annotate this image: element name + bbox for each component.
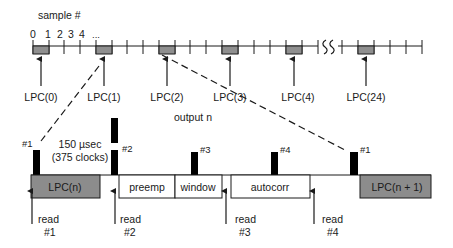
stage-label: preemp	[129, 181, 165, 193]
stage-label: autocorr	[251, 181, 290, 193]
read-number: #3	[239, 226, 251, 238]
sample-tick-numbers: 0 1 2 3 4 ...	[30, 28, 100, 40]
frame-arrows	[41, 59, 366, 86]
output-label: output n	[174, 111, 212, 123]
tick-ellipsis: ...	[92, 29, 100, 40]
tick-number: 3	[68, 28, 74, 40]
marker-label: #3	[200, 144, 211, 155]
tick-number: 1	[45, 28, 51, 40]
frame-label: LPC(24)	[346, 91, 385, 103]
sample-block-lpc0	[33, 46, 49, 54]
stage-label: window	[179, 181, 215, 193]
marker-bar-4	[271, 152, 278, 175]
marker-bar-1-next	[350, 152, 358, 175]
duration-label: 150 µsec	[59, 138, 102, 150]
read-label: read	[235, 213, 256, 225]
read-labels: read #1 read #2 read #3 read #4	[38, 213, 343, 238]
tick-number: 0	[30, 28, 36, 40]
clocks-label: (375 clocks)	[52, 151, 109, 163]
dashed-line-right	[162, 55, 345, 150]
frame-label: LPC(1)	[87, 91, 120, 103]
stage-label: LPC(n + 1)	[371, 181, 422, 193]
tick-number: 4	[79, 28, 85, 40]
marker-bar-1	[33, 150, 40, 175]
sample-axis-label: sample #	[38, 9, 81, 21]
tick-number: 2	[57, 28, 63, 40]
diagram-canvas: sample # 0 1 2 3 4 ...	[0, 0, 453, 248]
marker-bar-2	[111, 150, 118, 175]
sample-block-lpc24	[358, 46, 374, 54]
output-bar	[111, 118, 118, 143]
stage-label: LPC(n)	[48, 181, 81, 193]
sample-block-lpc3	[222, 46, 238, 54]
marker-label: #4	[280, 144, 291, 155]
axis-break-icon	[323, 40, 334, 54]
read-label: read	[120, 213, 141, 225]
read-number: #1	[44, 226, 56, 238]
sample-block-lpc4	[286, 46, 302, 54]
sample-block-lpc1	[96, 46, 112, 54]
sample-block-lpc2	[159, 46, 175, 54]
read-number: #2	[124, 226, 136, 238]
read-label: read	[322, 213, 343, 225]
marker-label: #1	[22, 138, 33, 149]
marker-bar-3	[191, 152, 198, 175]
frame-label: LPC(4)	[281, 91, 314, 103]
sample-blocks	[33, 46, 374, 54]
frame-label: LPC(0)	[24, 91, 57, 103]
marker-label: #1	[360, 144, 371, 155]
read-number: #4	[327, 226, 339, 238]
read-label: read	[38, 213, 59, 225]
dashed-line-left	[41, 66, 99, 141]
marker-label: #2	[122, 143, 133, 154]
lpc-timing-diagram: sample # 0 1 2 3 4 ...	[0, 0, 453, 248]
frame-label: LPC(2)	[150, 91, 183, 103]
